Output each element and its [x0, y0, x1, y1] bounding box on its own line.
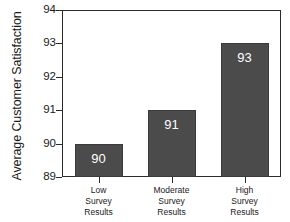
x-axis-tick-label-line: Survey — [62, 196, 135, 207]
x-axis-tick-label-line: Moderate — [135, 185, 208, 196]
x-axis-tick-label-line: Low — [62, 185, 135, 196]
y-axis-tick-label: 94 — [36, 4, 56, 16]
bar-value-label: 90 — [76, 152, 122, 165]
x-axis-tick-labels: LowSurveyResultsModerateSurveyResultsHig… — [62, 185, 281, 222]
bar-value-label: 91 — [149, 118, 195, 131]
x-axis-tick-label-line: Survey — [135, 196, 208, 207]
bar-value-label: 93 — [222, 51, 268, 64]
x-axis-tick-label-line: High — [208, 185, 281, 196]
y-axis-tick-label: 89 — [36, 171, 56, 183]
x-axis-tick-label-line: Results — [62, 207, 135, 218]
bar-chart: Average Customer Satisfaction 8990919293… — [0, 0, 290, 222]
x-axis-tick-marks — [62, 177, 281, 184]
x-axis-tick-mark — [245, 177, 246, 183]
y-axis-tick-label: 93 — [36, 38, 56, 50]
bar: 91 — [148, 110, 196, 177]
bar: 90 — [75, 144, 123, 177]
x-axis-tick-mark — [99, 177, 100, 183]
bars-layer: 909193 — [62, 10, 281, 177]
y-axis-tick-label: 90 — [36, 138, 56, 150]
x-axis-tick-label-line: Survey — [208, 196, 281, 207]
y-axis-tick-label: 91 — [36, 104, 56, 116]
y-axis-title: Average Customer Satisfaction — [10, 6, 26, 186]
x-axis-tick-label: HighSurveyResults — [208, 185, 281, 218]
y-axis-tick-labels: 899091929394 — [32, 0, 56, 222]
x-axis-tick-label: ModerateSurveyResults — [135, 185, 208, 218]
bar: 93 — [221, 43, 269, 177]
x-axis-tick-label-line: Results — [208, 207, 281, 218]
x-axis-tick-label-line: Results — [135, 207, 208, 218]
x-axis-tick-label: LowSurveyResults — [62, 185, 135, 218]
x-axis-tick-mark — [172, 177, 173, 183]
y-axis-tick-label: 92 — [36, 71, 56, 83]
